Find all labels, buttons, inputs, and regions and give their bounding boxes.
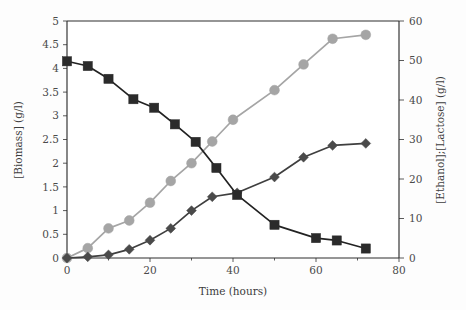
data-point-marker xyxy=(170,120,179,129)
y-left-tick-label: 1 xyxy=(52,204,59,216)
data-point-marker xyxy=(270,220,279,229)
x-tick-label: 20 xyxy=(143,264,156,276)
y-right-tick-label: 0 xyxy=(409,252,416,264)
data-point-marker xyxy=(328,34,338,44)
plot-background xyxy=(67,21,399,258)
data-point-marker xyxy=(361,30,371,40)
y-right-tick-label: 50 xyxy=(409,54,422,66)
data-point-marker xyxy=(124,216,134,226)
data-point-marker xyxy=(228,115,238,125)
data-point-marker xyxy=(129,95,138,104)
fermentation-line-chart: 020406080 00.511.522.533.544.55 01020304… xyxy=(0,0,466,310)
data-point-marker xyxy=(332,236,341,245)
data-point-marker xyxy=(191,137,200,146)
data-point-marker xyxy=(104,74,113,83)
data-point-marker xyxy=(62,57,71,66)
y-left-tick-label: 2 xyxy=(52,157,59,169)
data-point-marker xyxy=(150,103,159,112)
y-right-tick-label: 10 xyxy=(409,212,422,224)
y-left-tick-label: 5 xyxy=(52,15,59,27)
data-point-marker xyxy=(311,233,320,242)
data-point-marker xyxy=(83,243,93,253)
data-point-marker xyxy=(299,60,309,70)
data-point-marker xyxy=(187,158,197,168)
x-axis-title: Time (hours) xyxy=(199,285,267,297)
data-point-marker xyxy=(233,190,242,199)
y-left-tick-label: 3 xyxy=(52,109,59,121)
data-point-marker xyxy=(212,163,221,172)
y-left-tick-label: 0 xyxy=(52,252,59,264)
y-right-tick-label: 60 xyxy=(409,15,422,27)
data-point-marker xyxy=(145,198,155,208)
x-tick-label: 0 xyxy=(64,264,71,276)
y-left-tick-label: 4 xyxy=(52,62,59,74)
chart-figure: 020406080 00.511.522.533.544.55 01020304… xyxy=(0,0,466,310)
y-left-tick-label: 0.5 xyxy=(42,228,59,240)
data-point-marker xyxy=(166,176,176,186)
data-point-marker xyxy=(104,223,114,233)
data-point-marker xyxy=(270,85,280,95)
data-point-marker xyxy=(207,137,217,147)
y-right-tick-label: 20 xyxy=(409,173,422,185)
y-left-tick-label: 3.5 xyxy=(42,86,59,98)
y-axis-right-tick-labels: 0102030405060 xyxy=(409,15,422,264)
y-axis-left-tick-labels: 00.511.522.533.544.55 xyxy=(42,15,59,264)
y-left-tick-label: 1.5 xyxy=(42,181,59,193)
y-left-tick-label: 2.5 xyxy=(42,133,59,145)
x-axis-tick-labels: 020406080 xyxy=(64,264,406,276)
x-tick-label: 40 xyxy=(226,264,239,276)
y-left-tick-label: 4.5 xyxy=(42,38,59,50)
data-point-marker xyxy=(83,61,92,70)
y-right-tick-label: 30 xyxy=(409,133,422,145)
y-axis-right-title: [Ethanol];[Lactose] (g/l) xyxy=(434,76,446,204)
x-tick-label: 60 xyxy=(309,264,322,276)
y-right-tick-label: 40 xyxy=(409,94,422,106)
y-axis-left-title: [Biomass] (g/l) xyxy=(12,101,24,179)
data-point-marker xyxy=(361,244,370,253)
x-tick-label: 80 xyxy=(392,264,405,276)
